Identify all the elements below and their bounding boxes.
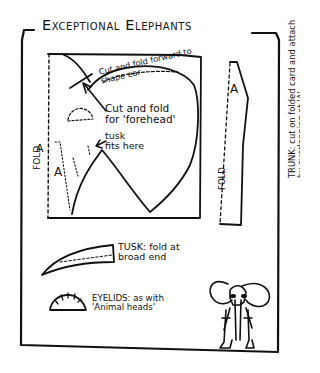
tusk-fits-note: tusk fits here xyxy=(105,131,144,151)
eyelid-note-line-2: 'Animal heads' xyxy=(92,303,164,312)
eyelid-template xyxy=(50,293,86,310)
eyelid-note: EYELIDS: as with 'Animal heads' xyxy=(92,294,164,312)
ear-marker-a-top: A xyxy=(36,142,44,155)
page-title: Exceptional Elephants xyxy=(42,18,192,33)
trunk-note: TRUNK: cut on folded card and attach by … xyxy=(288,20,300,178)
elephant-illustration xyxy=(210,282,269,348)
ear-marker-a-inner: A xyxy=(54,165,63,179)
trunk-marker-a: A xyxy=(230,82,239,96)
forehead-note: Cut and fold for 'forehead' xyxy=(105,103,175,125)
forehead-note-line-2: for 'forehead' xyxy=(105,114,175,125)
tusk-template xyxy=(42,245,114,275)
tusk-fits-line-2: fits here xyxy=(105,141,144,151)
tusk-note-line-2: broad end xyxy=(118,252,180,262)
trunk-note-line-2: by overlapping at 'A' xyxy=(297,20,300,178)
trunk-fold-label: FOLD xyxy=(217,167,227,190)
tusk-note: TUSK: fold at broad end xyxy=(118,242,180,262)
